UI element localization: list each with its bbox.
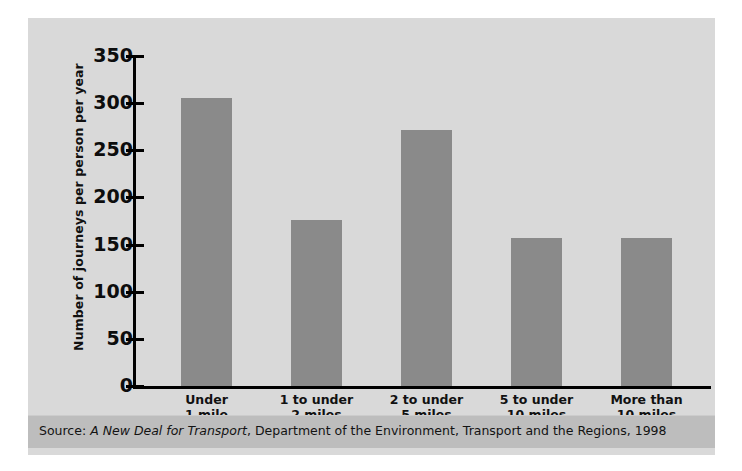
chart-figure: Number of journeys per person per year 3… [28, 18, 715, 455]
bar-series [28, 18, 715, 415]
bar [621, 238, 672, 386]
x-label-line: Under [147, 392, 267, 407]
source-band: Source: A New Deal for Transport, Depart… [28, 415, 715, 448]
source-publication-title: A New Deal for Transport [90, 423, 247, 438]
bar [181, 98, 232, 386]
x-label-line: 2 to under [367, 392, 487, 407]
x-label-line: More than [587, 392, 707, 407]
bar [401, 130, 452, 386]
plot-area: Number of journeys per person per year 3… [28, 18, 715, 415]
source-caption: Source: A New Deal for Transport, Depart… [39, 423, 667, 438]
bar [291, 220, 342, 386]
bar [511, 238, 562, 386]
x-label-line: 1 to under [257, 392, 377, 407]
x-label-line: 5 to under [477, 392, 597, 407]
